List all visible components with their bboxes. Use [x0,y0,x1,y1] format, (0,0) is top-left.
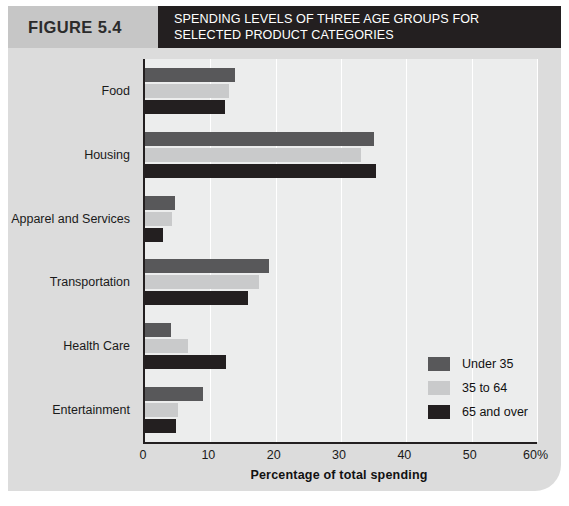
figure-page: FIGURE 5.4 SPENDING LEVELS OF THREE AGE … [0,0,569,506]
y-axis-label: Health Care [63,339,130,353]
bar [145,68,235,82]
legend-row: Under 35 [428,352,548,376]
bar [145,403,178,417]
x-axis-tick-label: 60% [523,448,548,462]
legend-label: 65 and over [462,405,528,419]
legend-swatch [428,357,450,371]
x-axis-tick-label: 50 [463,448,477,462]
x-axis-tick-label: 40 [397,448,411,462]
legend-swatch [428,381,450,395]
legend-label: Under 35 [462,357,513,371]
y-axis-label: Housing [84,148,130,162]
y-axis-label: Food [102,84,131,98]
legend-label: 35 to 64 [462,381,507,395]
figure-number-label: FIGURE 5.4 [8,6,158,48]
bar [145,196,175,210]
bar [145,84,229,98]
chart-legend: Under 3535 to 6465 and over [428,352,548,424]
bar [145,323,171,337]
bar [145,132,374,146]
legend-row: 65 and over [428,400,548,424]
legend-swatch [428,405,450,419]
bar [145,419,176,433]
bar [145,339,188,353]
bar [145,228,163,242]
bar [145,212,172,226]
bar [145,387,203,401]
figure-title: SPENDING LEVELS OF THREE AGE GROUPS FOR … [158,6,561,48]
y-axis-labels: FoodHousingApparel and ServicesTransport… [8,59,136,442]
x-axis-tick-label: 10 [201,448,215,462]
x-axis-tick-labels: 0102030405060% [143,448,535,468]
bar [145,148,361,162]
bar [145,355,226,369]
bar [145,291,248,305]
x-axis-tick-label: 30 [332,448,346,462]
bar [145,275,259,289]
bar [145,164,376,178]
x-axis-tick-label: 0 [140,448,147,462]
x-axis-tick-label: 20 [267,448,281,462]
bar [145,100,225,114]
y-axis-label: Entertainment [52,403,130,417]
figure-header: FIGURE 5.4 SPENDING LEVELS OF THREE AGE … [8,6,561,48]
y-axis-label: Apparel and Services [11,212,130,226]
chart: FoodHousingApparel and ServicesTransport… [8,48,561,491]
legend-row: 35 to 64 [428,376,548,400]
bar [145,259,269,273]
x-axis-title: Percentage of total spending [143,468,535,482]
y-axis-label: Transportation [50,275,130,289]
